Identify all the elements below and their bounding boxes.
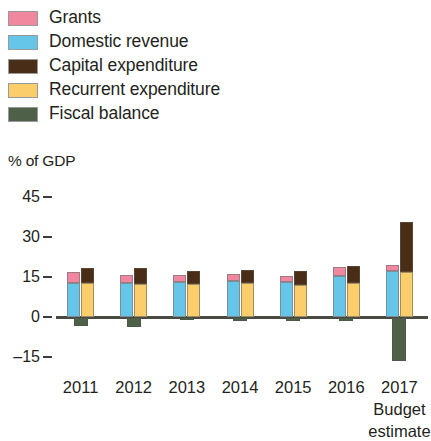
legend-swatch-grants xyxy=(8,11,38,26)
legend-item-recurrent-expenditure: Recurrent expenditure xyxy=(8,78,308,102)
y-axis-tick-label: 0 xyxy=(0,308,40,326)
x-axis-sublabel-line1: Budget xyxy=(373,400,425,419)
y-axis-tick-mark xyxy=(43,316,52,318)
y-axis-tick-mark xyxy=(43,236,52,238)
chart-legend: GrantsDomestic revenueCapital expenditur… xyxy=(8,6,308,126)
legend-label-domestic-revenue: Domestic revenue xyxy=(49,33,188,51)
bar-fiscal-balance-2012 xyxy=(127,318,141,327)
bar-grants-2012 xyxy=(120,275,133,284)
legend-item-domestic-revenue: Domestic revenue xyxy=(8,30,308,54)
bar-capital-expenditure-2016 xyxy=(347,266,360,283)
legend-label-grants: Grants xyxy=(49,9,101,27)
legend-label-fiscal-balance: Fiscal balance xyxy=(49,105,159,123)
x-axis-label-2016: 2016 xyxy=(328,378,365,397)
legend-swatch-recurrent-expenditure xyxy=(8,83,38,98)
bar-domestic-revenue-2011 xyxy=(67,283,80,317)
bar-fiscal-balance-2011 xyxy=(74,318,88,326)
x-axis-label-2013: 2013 xyxy=(168,378,205,397)
bar-domestic-revenue-2014 xyxy=(227,281,240,317)
bar-recurrent-expenditure-2013 xyxy=(187,284,200,317)
y-axis-tick-mark xyxy=(43,356,52,358)
plot-area xyxy=(56,190,428,370)
legend-swatch-fiscal-balance xyxy=(8,107,38,122)
legend-item-capital-expenditure: Capital expenditure xyxy=(8,54,308,78)
bar-domestic-revenue-2012 xyxy=(120,283,133,317)
bar-grants-2015 xyxy=(280,276,293,282)
bar-capital-expenditure-2015 xyxy=(294,271,307,285)
x-axis-sublabel-line2: estimate xyxy=(368,422,430,441)
bar-recurrent-expenditure-2017 xyxy=(400,272,413,317)
y-axis-tick-label: –15 xyxy=(0,348,40,366)
y-axis-tick-label: 45 xyxy=(0,188,40,206)
legend-label-capital-expenditure: Capital expenditure xyxy=(49,57,198,75)
legend-label-recurrent-expenditure: Recurrent expenditure xyxy=(49,81,220,99)
bar-grants-2014 xyxy=(227,274,240,281)
bar-domestic-revenue-2015 xyxy=(280,282,293,317)
bar-capital-expenditure-2013 xyxy=(187,271,200,284)
bar-domestic-revenue-2017 xyxy=(386,271,399,317)
legend-item-fiscal-balance: Fiscal balance xyxy=(8,102,308,126)
x-axis-label-2014: 2014 xyxy=(222,378,259,397)
bar-recurrent-expenditure-2015 xyxy=(294,285,307,317)
bar-grants-2011 xyxy=(67,272,80,282)
bar-domestic-revenue-2016 xyxy=(333,276,346,317)
bar-domestic-revenue-2013 xyxy=(173,282,186,317)
x-axis-label-2011: 2011 xyxy=(63,378,98,397)
bar-recurrent-expenditure-2012 xyxy=(134,284,147,317)
bar-fiscal-balance-2015 xyxy=(286,318,300,321)
bar-recurrent-expenditure-2014 xyxy=(241,283,254,317)
bar-recurrent-expenditure-2011 xyxy=(81,283,94,317)
y-axis-unit-caption: % of GDP xyxy=(8,152,75,170)
bar-capital-expenditure-2012 xyxy=(134,268,147,284)
bar-fiscal-balance-2013 xyxy=(180,318,194,320)
y-axis-tick-label: 30 xyxy=(0,228,40,246)
bar-capital-expenditure-2014 xyxy=(241,270,254,284)
x-axis-label-2017: 2017 xyxy=(381,378,418,397)
bar-recurrent-expenditure-2016 xyxy=(347,283,360,317)
y-axis-tick-mark xyxy=(43,196,52,198)
x-axis-label-2012: 2012 xyxy=(115,378,152,397)
bar-fiscal-balance-2016 xyxy=(339,318,353,321)
bar-capital-expenditure-2017 xyxy=(400,222,413,271)
bar-grants-2016 xyxy=(333,267,346,276)
legend-swatch-capital-expenditure xyxy=(8,59,38,74)
bar-capital-expenditure-2011 xyxy=(81,268,94,283)
bar-fiscal-balance-2017 xyxy=(392,318,406,361)
bar-grants-2013 xyxy=(173,275,186,282)
x-axis-label-2015: 2015 xyxy=(275,378,312,397)
y-axis-tick-label: 15 xyxy=(0,268,40,286)
legend-swatch-domestic-revenue xyxy=(8,35,38,50)
legend-item-grants: Grants xyxy=(8,6,308,30)
y-axis-tick-mark xyxy=(43,276,52,278)
bar-fiscal-balance-2014 xyxy=(233,318,247,321)
bar-grants-2017 xyxy=(386,265,399,271)
